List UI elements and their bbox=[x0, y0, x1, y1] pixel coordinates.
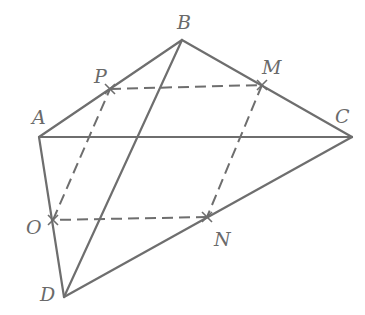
solid-edges bbox=[39, 40, 352, 297]
dashed-edge-NO bbox=[53, 217, 207, 220]
label-B: B bbox=[176, 11, 191, 33]
label-D: D bbox=[39, 283, 55, 305]
edge-AD bbox=[39, 137, 64, 297]
vertex-labels: A B C D P M N O bbox=[26, 11, 350, 305]
label-C: C bbox=[335, 105, 350, 127]
label-P: P bbox=[93, 65, 108, 87]
edge-BC bbox=[182, 40, 352, 137]
edge-BD bbox=[64, 40, 182, 297]
geometry-diagram: A B C D P M N O bbox=[0, 0, 365, 315]
label-M: M bbox=[261, 56, 282, 78]
label-O: O bbox=[26, 216, 42, 238]
label-A: A bbox=[30, 106, 46, 128]
label-N: N bbox=[213, 228, 232, 250]
dashed-edge-PM bbox=[110, 85, 262, 89]
dashed-edge-MN bbox=[207, 85, 262, 217]
